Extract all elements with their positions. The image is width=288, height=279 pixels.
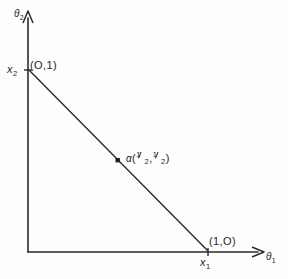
y-axis-label-subscript: 2 xyxy=(20,14,24,21)
point-label-top-vertex: (O,1) xyxy=(30,60,57,71)
alpha-point-marker xyxy=(116,158,120,162)
fraction-denominator: 2 xyxy=(145,158,150,166)
fraction-one-half-second: 12 xyxy=(153,152,166,164)
alpha-point-label: α(12,12) xyxy=(126,152,170,164)
tick-label-x1-subscript: 1 xyxy=(206,262,211,271)
tick-label-x2: x2 xyxy=(7,64,17,78)
tick-label-x2-subscript: 2 xyxy=(13,69,18,78)
alpha-close-paren: ) xyxy=(166,152,170,164)
fraction-one-half-first: 12 xyxy=(136,152,149,164)
x-axis-label-subscript: 1 xyxy=(272,257,276,264)
figure-canvas xyxy=(0,0,288,279)
x-axis-label: θ1 xyxy=(266,252,276,264)
simplex-figure: θ2 θ1 x2 x1 (O,1) (1,O) α(12,12) xyxy=(0,0,288,279)
point-label-right-vertex: (1,O) xyxy=(209,236,236,247)
y-axis-label: θ2 xyxy=(14,9,24,21)
fraction-denominator: 2 xyxy=(161,158,166,166)
tick-label-x1: x1 xyxy=(200,257,210,271)
